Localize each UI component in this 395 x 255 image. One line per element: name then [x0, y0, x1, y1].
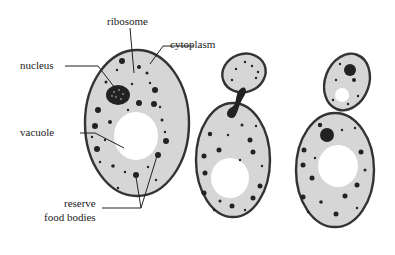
vacuole — [211, 158, 249, 198]
vacuole — [114, 112, 158, 160]
cell-1 — [85, 50, 189, 196]
cell-3 — [296, 47, 378, 227]
label-reserve: reserve — [64, 197, 96, 209]
nucleus — [106, 85, 130, 105]
bud-nucleus — [344, 64, 356, 76]
nucleus — [320, 128, 334, 142]
vacuole — [318, 145, 358, 187]
label-food-bodies: food bodies — [44, 211, 96, 223]
yeast-diagram: ribosome cytoplasm nucleus vacuole reser… — [0, 0, 395, 255]
bud-vacuole — [335, 88, 349, 102]
label-vacuole: vacuole — [20, 126, 54, 138]
label-cytoplasm: cytoplasm — [170, 38, 216, 50]
label-ribosome: ribosome — [107, 15, 148, 27]
bud — [316, 47, 377, 117]
cell-2 — [196, 48, 271, 217]
label-nucleus: nucleus — [20, 59, 54, 71]
